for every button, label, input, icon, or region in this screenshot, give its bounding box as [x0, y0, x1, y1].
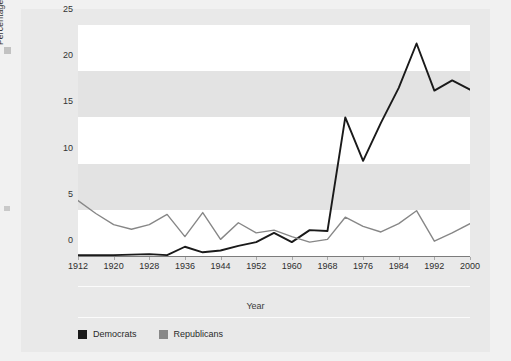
x-axis-tick-label: 1936 — [175, 261, 195, 271]
x-axis-tick — [114, 257, 115, 260]
x-axis-tick-label: 1928 — [139, 261, 159, 271]
y-axis-tick-label: 5 — [43, 189, 73, 199]
x-axis-tick-label: 1944 — [211, 261, 231, 271]
x-axis-tick — [327, 257, 328, 260]
x-axis-tick — [256, 257, 257, 260]
x-axis-tick-label: 1960 — [282, 261, 302, 271]
legend-swatch — [78, 330, 87, 339]
x-axis-tick — [363, 257, 364, 260]
y-axis-tick-label: 20 — [43, 50, 73, 60]
y-axis-tick-label: 10 — [43, 143, 73, 153]
x-axis-tick-labels: 1912192019281936194419521960196819761984… — [78, 261, 470, 275]
chart-plot-area — [78, 25, 470, 256]
figure-panel: 0510152025 Percentage Black Delegates 19… — [21, 9, 490, 352]
x-axis-tick — [221, 257, 222, 260]
y-axis-tick-label: 15 — [43, 96, 73, 106]
x-axis-tick-label: 1968 — [317, 261, 337, 271]
x-axis-tick-label: 1992 — [424, 261, 444, 271]
x-axis-tick — [399, 257, 400, 260]
y-axis-tick-labels: 0510152025 — [43, 9, 73, 240]
y-axis-tick-label: 0 — [43, 235, 73, 245]
x-axis-tick-label: 2000 — [460, 261, 480, 271]
x-axis-tick-label: 1976 — [353, 261, 373, 271]
y-axis-tick-label: 25 — [43, 4, 73, 14]
x-axis-tick-label: 1952 — [246, 261, 266, 271]
series-line-democrats — [78, 43, 470, 255]
page-margin-mark — [4, 47, 11, 54]
legend-label: Democrats — [93, 329, 137, 339]
legend-swatch — [159, 330, 168, 339]
chart-legend: DemocratsRepublicans — [78, 327, 223, 341]
divider-rule-top — [78, 286, 470, 287]
legend-label: Republicans — [174, 329, 224, 339]
divider-rule-bottom — [78, 317, 470, 318]
x-axis-tick — [434, 257, 435, 260]
x-axis-tick — [78, 257, 79, 260]
x-axis-tick-label: 1920 — [104, 261, 124, 271]
x-axis-tick — [470, 257, 471, 260]
series-line-republicans — [78, 201, 470, 243]
x-axis-tick — [185, 257, 186, 260]
x-axis-tick — [149, 257, 150, 260]
y-axis-title: Percentage Black Delegates — [0, 0, 5, 45]
x-axis-title: Year — [21, 301, 490, 311]
legend-item-democrats: Democrats — [78, 329, 137, 339]
x-axis-tick — [292, 257, 293, 260]
x-axis-tick-label: 1984 — [389, 261, 409, 271]
legend-item-republicans: Republicans — [159, 329, 224, 339]
chart-series-lines — [78, 25, 470, 256]
page-margin-mark — [4, 206, 10, 211]
x-axis-tick-label: 1912 — [68, 261, 88, 271]
